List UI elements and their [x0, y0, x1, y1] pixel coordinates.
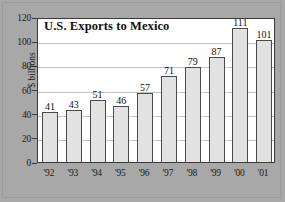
bar — [113, 106, 129, 162]
bar-value-label: 46 — [107, 95, 135, 106]
bar — [185, 67, 201, 162]
bar — [42, 112, 58, 162]
bar-value-label: 101 — [250, 29, 278, 40]
y-tick-label: 20 — [22, 133, 31, 145]
bar-value-label: 87 — [203, 46, 231, 57]
bar-value-label: 71 — [155, 65, 183, 76]
plot-area: 4143514657717987111101 — [37, 18, 275, 163]
bar-value-label: 57 — [131, 82, 159, 93]
bar — [66, 110, 82, 162]
y-tick-label: 0 — [26, 157, 31, 169]
bar — [209, 57, 225, 162]
y-tick-label: 40 — [22, 109, 31, 121]
bar-value-label: 111 — [226, 17, 254, 28]
bar — [90, 100, 106, 162]
bar — [256, 40, 272, 162]
bar-value-label: 43 — [60, 99, 88, 110]
x-tick-label: '01 — [249, 168, 277, 178]
y-axis-title: $ billions — [27, 30, 37, 110]
chart-title: U.S. Exports to Mexico — [44, 19, 169, 34]
bar — [137, 93, 153, 162]
bar — [232, 28, 248, 162]
bar-value-label: 79 — [179, 56, 207, 67]
bar — [161, 76, 177, 162]
y-tick-label: 120 — [17, 12, 31, 24]
chart-figure: 020406080100120 $ billions 4143514657717… — [0, 0, 285, 202]
